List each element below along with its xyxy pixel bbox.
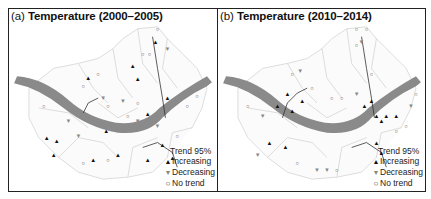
svg-text:○: ○ xyxy=(82,83,86,89)
svg-text:▼: ▼ xyxy=(324,167,330,173)
svg-text:▲: ▲ xyxy=(51,152,57,158)
svg-text:▼: ▼ xyxy=(255,152,261,158)
svg-text:○: ○ xyxy=(96,71,100,77)
svg-text:▼: ▼ xyxy=(260,113,266,119)
svg-text:▲: ▲ xyxy=(54,138,60,144)
svg-text:▼: ▼ xyxy=(75,133,81,139)
svg-text:○: ○ xyxy=(414,91,418,97)
svg-text:○: ○ xyxy=(185,103,189,109)
triangle-up-icon: ▲ xyxy=(164,157,172,167)
panel-title-text: Temperature (2010–2014) xyxy=(237,10,372,22)
svg-text:○: ○ xyxy=(355,42,359,48)
svg-text:○: ○ xyxy=(176,133,180,139)
svg-text:▲: ▲ xyxy=(383,113,389,119)
svg-text:○: ○ xyxy=(246,103,250,109)
svg-text:▲: ▲ xyxy=(44,135,50,141)
legend-item-increasing: ▲Increasing xyxy=(372,156,423,167)
legend-header: Trend 95% xyxy=(372,146,423,156)
svg-text:○: ○ xyxy=(295,160,299,166)
svg-text:▲: ▲ xyxy=(135,76,141,82)
svg-text:▲: ▲ xyxy=(282,144,288,150)
panel-title: (b) Temperature (2010–2014) xyxy=(220,10,372,22)
legend-item-no-trend: ○No trend xyxy=(372,178,423,189)
legend: Trend 95% ▲Increasing ▼Decreasing ○No tr… xyxy=(372,146,423,189)
legend: Trend 95% ▲Increasing ▼Decreasing ○No tr… xyxy=(164,146,215,189)
svg-text:▲: ▲ xyxy=(145,157,151,163)
svg-text:▲: ▲ xyxy=(130,63,136,69)
legend-item-decreasing: ▼Decreasing xyxy=(372,167,423,178)
svg-text:○: ○ xyxy=(195,93,199,99)
legend-header: Trend 95% xyxy=(164,146,215,156)
svg-text:○: ○ xyxy=(42,103,46,109)
legend-item-increasing: ▲Increasing xyxy=(164,156,215,167)
circle-icon: ○ xyxy=(372,179,380,189)
svg-text:○: ○ xyxy=(141,51,145,57)
svg-text:▲: ▲ xyxy=(299,98,305,104)
svg-text:▼: ▼ xyxy=(135,118,141,124)
svg-text:▼: ▼ xyxy=(66,118,72,124)
map-panel-a: ▲ ▲ ▲ ▲ ▲ ▲ ▲ ▲ ▲ ▲ ▲ ▲ ▲ ▲ ▲ ▼ ▼ ▼ ▼ ▼ … xyxy=(8,8,218,192)
svg-text:▲: ▲ xyxy=(145,111,151,117)
svg-text:○: ○ xyxy=(126,113,130,119)
legend-item-decreasing: ▼Decreasing xyxy=(164,167,215,178)
svg-text:○: ○ xyxy=(335,167,339,173)
svg-text:▼: ▼ xyxy=(359,39,365,45)
svg-text:▼: ▼ xyxy=(100,95,106,101)
circle-icon: ○ xyxy=(164,179,172,189)
svg-text:▲: ▲ xyxy=(289,108,295,114)
triangle-up-icon: ▲ xyxy=(372,157,380,167)
svg-text:▲: ▲ xyxy=(115,152,121,158)
svg-text:▲: ▲ xyxy=(90,157,96,163)
svg-text:▲: ▲ xyxy=(85,75,91,81)
svg-text:▲: ▲ xyxy=(362,103,368,109)
svg-text:▲: ▲ xyxy=(284,91,290,97)
triangle-down-icon: ▼ xyxy=(164,168,172,178)
svg-text:▼: ▼ xyxy=(408,103,414,109)
svg-text:○: ○ xyxy=(404,123,408,129)
triangle-down-icon: ▼ xyxy=(372,168,380,178)
svg-text:○: ○ xyxy=(330,95,334,101)
svg-text:▼: ▼ xyxy=(297,68,303,74)
panel-title-text: Temperature (2000–2005) xyxy=(28,10,163,22)
svg-text:○: ○ xyxy=(82,160,86,166)
svg-text:○: ○ xyxy=(156,26,160,32)
legend-item-no-trend: ○No trend xyxy=(164,178,215,189)
panel-title: (a) Temperature (2000–2005) xyxy=(11,10,163,22)
svg-text:▲: ▲ xyxy=(369,98,375,104)
svg-text:▼: ▼ xyxy=(164,46,170,52)
panel-tag: (a) xyxy=(11,10,25,22)
svg-text:○: ○ xyxy=(355,26,359,32)
svg-text:▲: ▲ xyxy=(393,113,399,119)
svg-text:○: ○ xyxy=(394,128,398,134)
svg-text:○: ○ xyxy=(136,100,140,106)
svg-text:▼: ▼ xyxy=(120,98,126,104)
svg-text:▲: ▲ xyxy=(275,103,281,109)
svg-text:▲: ▲ xyxy=(164,95,170,101)
svg-text:○: ○ xyxy=(365,26,369,32)
svg-text:○: ○ xyxy=(370,71,374,77)
svg-text:○: ○ xyxy=(106,103,110,109)
svg-text:○: ○ xyxy=(310,85,314,91)
svg-text:▼: ▼ xyxy=(155,123,161,129)
svg-text:○: ○ xyxy=(148,51,152,57)
svg-text:▼: ▼ xyxy=(314,167,320,173)
svg-text:▲: ▲ xyxy=(153,39,159,45)
svg-text:▼: ▼ xyxy=(354,91,360,97)
svg-text:▲: ▲ xyxy=(103,128,109,134)
svg-text:○: ○ xyxy=(291,71,295,77)
svg-text:▲: ▲ xyxy=(267,141,273,147)
svg-text:○: ○ xyxy=(106,157,110,163)
panel-tag: (b) xyxy=(220,10,234,22)
map-panel-b: ▲ ▲ ▲ ▲ ▲ ▲ ▲ ▲ ▲ ▲ ▲ ▲ ▲ ▲ ▼ ▼ ▼ ▼ ▼ ▼ … xyxy=(217,8,426,192)
svg-text:○: ○ xyxy=(340,95,344,101)
